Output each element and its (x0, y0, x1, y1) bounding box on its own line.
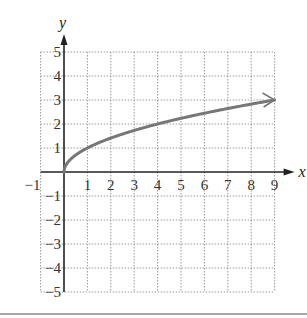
x-tick-label: 5 (177, 177, 185, 193)
x-axis-label: x (298, 163, 306, 180)
y-tick-label: −3 (45, 236, 61, 252)
y-tick-label: 2 (54, 116, 62, 132)
y-tick-label: 1 (54, 140, 62, 156)
y-axis-label: y (57, 14, 67, 32)
x-tick-label: −1 (25, 177, 41, 193)
chart-svg: xy−112345678954321−1−2−3−4−5 (0, 0, 307, 318)
x-tick-label: 6 (201, 177, 209, 193)
y-tick-label: 4 (54, 68, 62, 84)
x-tick-label: 3 (130, 177, 138, 193)
y-tick-label: −4 (45, 260, 61, 276)
x-tick-label: 1 (84, 177, 92, 193)
y-axis-arrow-icon (61, 34, 68, 45)
x-tick-label: 4 (154, 177, 162, 193)
y-tick-label: −1 (45, 188, 61, 204)
y-tick-label: −2 (45, 212, 61, 228)
x-tick-label: 7 (224, 177, 232, 193)
x-tick-label: 8 (247, 177, 255, 193)
x-tick-label: 2 (107, 177, 115, 193)
x-tick-label: 9 (271, 177, 279, 193)
x-axis-arrow-icon (284, 169, 295, 176)
y-tick-label: 5 (54, 44, 62, 60)
y-tick-label: −5 (45, 284, 61, 300)
y-tick-label: 3 (54, 92, 62, 108)
sqrt-curve (64, 100, 275, 172)
